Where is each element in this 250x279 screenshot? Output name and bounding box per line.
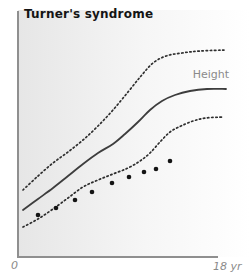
- chart-title: Turner's syndrome: [24, 7, 153, 21]
- patient-height-dot: [168, 159, 173, 164]
- x-axis-origin-label: 0: [11, 259, 18, 272]
- patient-height-dot: [90, 190, 95, 195]
- plot-area-background: [18, 10, 250, 257]
- patient-height-dot: [127, 175, 132, 180]
- patient-height-dot: [36, 213, 41, 218]
- patient-height-dot: [73, 198, 78, 203]
- turner-growth-chart: Turner's syndrome Height 0 18 yr: [0, 0, 250, 279]
- chart-canvas: [0, 0, 250, 279]
- patient-height-dot: [154, 167, 159, 172]
- x-axis-max-label: 18 yr: [213, 260, 242, 273]
- patient-height-dot: [110, 181, 115, 186]
- patient-height-dot: [54, 206, 59, 211]
- height-curve-label: Height: [191, 68, 229, 81]
- patient-height-dot: [142, 170, 147, 175]
